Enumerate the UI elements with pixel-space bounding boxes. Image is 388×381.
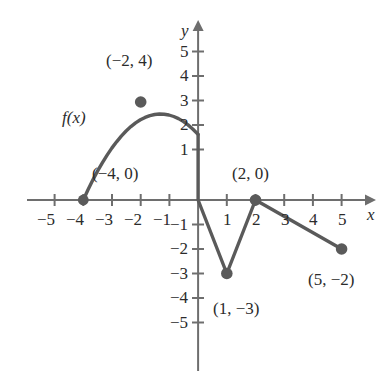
- point-label-1-neg3: (1, −3): [213, 300, 259, 317]
- function-graph-figure: −5 −4 −3 −2 −1 1 2 3 4 5 5 4 3 2 1 −1 −2…: [0, 0, 388, 381]
- y-tick-label-4: 4: [180, 67, 189, 84]
- x-tick-label-neg5: −5: [37, 211, 55, 228]
- x-tick-label-neg2: −2: [124, 211, 142, 228]
- y-tick-label-1: 1: [180, 141, 189, 158]
- y-axis-label: y: [181, 22, 189, 39]
- point-marker-1-neg3: [221, 268, 233, 280]
- y-tick-label-neg2: −2: [170, 240, 188, 257]
- point-label-5-neg2: (5, −2): [308, 271, 354, 288]
- point-marker-neg4-0: [78, 195, 89, 206]
- x-tick-label-neg4: −4: [66, 211, 84, 228]
- point-label-neg2-4: (−2, 4): [106, 52, 152, 69]
- point-marker-5-neg2: [336, 243, 348, 255]
- marked-points: [78, 96, 348, 279]
- y-tick-label-neg3: −3: [170, 265, 188, 282]
- x-tick-label-2: 2: [252, 211, 261, 228]
- point-label-neg4-0: (−4, 0): [92, 165, 138, 182]
- x-tick-label-4: 4: [309, 211, 318, 228]
- y-tick-label-5: 5: [180, 43, 189, 60]
- graph-canvas: [0, 0, 388, 381]
- function-label: f(x): [62, 109, 86, 126]
- function-curve: [83, 114, 341, 274]
- x-tick-label-3: 3: [281, 211, 290, 228]
- point-marker-2-0: [250, 194, 262, 206]
- y-tick-label-neg4: −4: [170, 289, 188, 306]
- x-tick-label-neg1: −1: [153, 211, 171, 228]
- y-tick-label-2: 2: [180, 116, 189, 133]
- point-marker-neg2-4: [135, 96, 147, 108]
- y-tick-label-neg1: −1: [170, 216, 188, 233]
- point-label-2-0: (2, 0): [232, 165, 269, 182]
- x-axis-label: x: [367, 206, 375, 223]
- x-tick-label-neg3: −3: [95, 211, 113, 228]
- x-tick-label-1: 1: [223, 211, 232, 228]
- y-tick-label-3: 3: [180, 92, 189, 109]
- x-tick-label-5: 5: [338, 211, 347, 228]
- y-tick-label-neg5: −5: [170, 314, 188, 331]
